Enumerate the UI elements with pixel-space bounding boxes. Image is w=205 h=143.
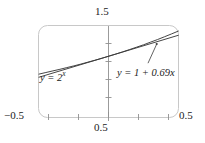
x-axis-max-label: 0.5 <box>179 110 193 121</box>
curve-label-linear: y = 1 + 0.69x <box>117 68 175 79</box>
curve-label-exponential-exponent: x <box>62 69 65 78</box>
x-axis-center-label: 0.5 <box>94 122 108 133</box>
annotation-pointer-dot <box>156 43 158 45</box>
curve-label-exponential-text: y = 2 <box>40 72 62 83</box>
curve-label-exponential: y = 2x <box>40 70 66 83</box>
annotation-leader-line <box>148 45 157 64</box>
x-axis-min-label: −0.5 <box>4 110 24 121</box>
y-axis-max-label: 1.5 <box>95 6 109 17</box>
x-axis-ticks <box>49 112 169 121</box>
